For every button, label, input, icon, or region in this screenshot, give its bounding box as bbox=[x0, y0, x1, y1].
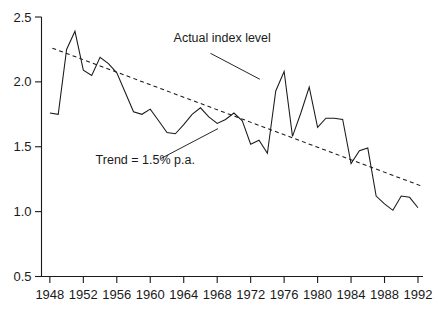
index-level-line-chart: 0.51.01.52.02.51948195219561960196419681… bbox=[0, 0, 438, 313]
y-tick-label: 0.5 bbox=[13, 269, 31, 284]
x-tick-label: 1952 bbox=[69, 287, 98, 302]
y-tick-label: 2.0 bbox=[13, 74, 31, 89]
chart-figure: 0.51.01.52.02.51948195219561960196419681… bbox=[0, 0, 438, 313]
annotation-leader-line-1 bbox=[210, 53, 259, 79]
x-tick-label: 1948 bbox=[35, 287, 64, 302]
annotation-label-2: Trend = 1.5% p.a. bbox=[96, 153, 195, 167]
y-tick-label: 2.5 bbox=[13, 10, 31, 25]
x-tick-label: 1980 bbox=[303, 287, 332, 302]
annotation-label-1: Actual index level bbox=[174, 31, 271, 45]
actual-index-series bbox=[50, 31, 418, 210]
x-tick-label: 1988 bbox=[370, 287, 399, 302]
x-tick-label: 1976 bbox=[270, 287, 299, 302]
x-tick-label: 1964 bbox=[169, 287, 198, 302]
y-tick-label: 1.5 bbox=[13, 139, 31, 154]
y-tick-label: 1.0 bbox=[13, 204, 31, 219]
x-tick-label: 1960 bbox=[136, 287, 165, 302]
x-tick-label: 1984 bbox=[337, 287, 366, 302]
x-tick-label: 1968 bbox=[203, 287, 232, 302]
x-tick-label: 1972 bbox=[236, 287, 265, 302]
x-tick-label: 1992 bbox=[404, 287, 433, 302]
x-tick-label: 1956 bbox=[102, 287, 131, 302]
chart-axes bbox=[42, 17, 424, 277]
